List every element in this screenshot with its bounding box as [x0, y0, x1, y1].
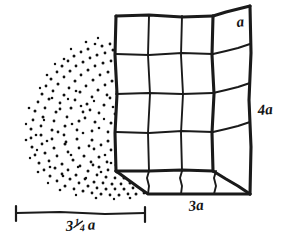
rectangular-box [115, 6, 251, 194]
label-width-3a: 3a [187, 197, 205, 214]
label-pile-width-unit: a [87, 216, 96, 232]
front-top-edge [116, 15, 213, 17]
label-height-4a: 4a [256, 101, 274, 118]
label-pile-width-whole: 3 [64, 218, 74, 234]
diagram-svg: a 4a 3a 3 1 4 a [0, 0, 295, 240]
figure-canvas: a 4a 3a 3 1 4 a [0, 0, 295, 240]
front-horizontal-line-2 [116, 93, 213, 94]
front-bottom-edge [116, 170, 213, 171]
label-pile-width-denominator: 4 [79, 222, 86, 233]
box-right-face-fill [213, 6, 250, 194]
